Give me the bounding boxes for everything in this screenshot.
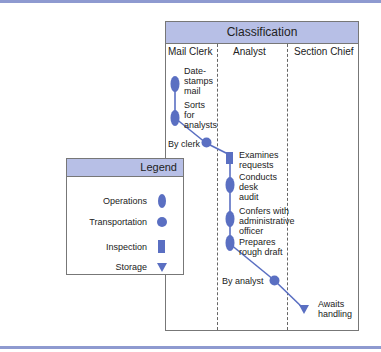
storage-icon <box>299 305 309 314</box>
step-label: Confers withadministrativeofficer <box>239 206 295 236</box>
legend-item-storage: Storage <box>67 260 183 274</box>
operation-icon <box>170 109 180 127</box>
step-label: Date-stampsmail <box>184 66 213 96</box>
operation-icon <box>170 75 180 93</box>
operation-icon <box>225 234 235 252</box>
legend-item-transportation: Transportation <box>67 215 183 229</box>
legend-title: Legend <box>67 159 183 177</box>
legend: Legend Operations Transportation Inspect… <box>66 158 184 275</box>
operation-icon <box>225 176 235 194</box>
bottom-rule <box>0 346 381 349</box>
step-label: Sortsforanalysts <box>184 100 217 130</box>
inspection-icon <box>226 152 234 164</box>
operation-icon <box>157 193 167 209</box>
step-label: Conductsdeskaudit <box>239 172 277 202</box>
step-label: Awaitshandling <box>318 299 352 319</box>
legend-item-operations: Operations <box>67 194 183 208</box>
operation-icon <box>225 210 235 228</box>
step-label: Preparesrough draft <box>239 237 283 257</box>
step-label: By analyst <box>222 276 264 286</box>
step-label: By clerk <box>168 139 200 149</box>
classification-flow-chart: Classification Mail Clerk Analyst Sectio… <box>165 21 359 331</box>
legend-item-inspection: Inspection <box>67 240 183 254</box>
inspection-icon <box>157 240 167 254</box>
transportation-icon <box>201 137 212 148</box>
step-label: Examinesrequests <box>239 150 279 170</box>
transportation-icon <box>157 215 167 229</box>
top-rule <box>0 0 381 3</box>
storage-icon <box>157 260 167 274</box>
transportation-icon <box>269 275 280 286</box>
